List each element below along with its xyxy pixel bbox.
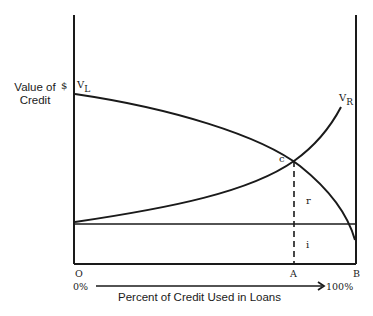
y-axis-label: Value of Credit <box>6 81 64 107</box>
region-r-label: r <box>306 195 311 207</box>
y-axis-label-line1: Value of <box>6 81 64 94</box>
point-a-label: A <box>290 268 297 280</box>
vl-curve <box>75 94 355 240</box>
region-i-label: i <box>306 239 309 251</box>
vl-label-sub: L <box>84 84 90 94</box>
range-start-label: 0% <box>73 281 88 293</box>
point-b-label: B <box>353 268 360 280</box>
dollar-unit-label: $ <box>61 80 67 92</box>
intersection-label: c <box>279 153 285 165</box>
x-axis-title: Percent of Credit Used in Loans <box>118 291 281 303</box>
y-axis-label-line2: Credit <box>6 94 64 107</box>
range-end-label: 100% <box>326 281 353 293</box>
credit-value-diagram <box>0 0 373 316</box>
vr-label: VR <box>339 92 353 104</box>
origin-label: O <box>75 268 83 280</box>
vr-label-sub: R <box>346 97 353 107</box>
vl-label: VL <box>77 79 90 91</box>
